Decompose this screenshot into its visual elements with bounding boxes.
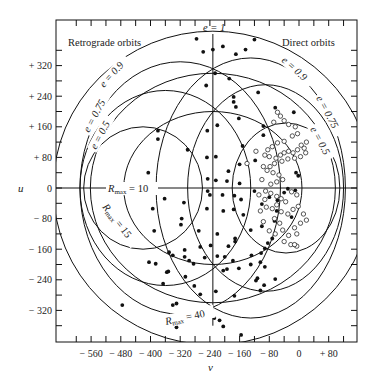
open-data-point <box>267 154 271 158</box>
filled-data-point <box>263 265 267 269</box>
open-data-point <box>282 139 286 143</box>
rmax10-val: = 10 <box>126 183 148 194</box>
filled-data-point <box>266 241 270 245</box>
filled-data-point <box>156 129 160 133</box>
open-data-point <box>295 131 299 135</box>
open-data-point <box>298 221 302 225</box>
filled-data-point <box>233 194 237 198</box>
filled-data-point <box>225 179 229 183</box>
filled-data-point <box>120 303 124 307</box>
filled-data-point <box>187 259 191 263</box>
filled-data-point <box>239 333 243 337</box>
open-data-point <box>268 164 272 168</box>
rmax10-label: Rmax = 10 <box>106 182 158 196</box>
y-tick-label: + 320 <box>29 60 52 71</box>
open-data-point <box>296 204 300 208</box>
filled-data-point <box>253 38 257 42</box>
filled-data-point <box>214 155 218 159</box>
filled-data-point <box>263 247 267 251</box>
filled-data-point <box>254 279 258 283</box>
filled-data-point <box>198 292 202 296</box>
x-axis-label: v <box>208 361 213 373</box>
filled-data-point <box>171 303 175 307</box>
open-data-point <box>292 242 296 246</box>
filled-data-point <box>260 202 264 206</box>
open-data-point <box>261 164 265 168</box>
filled-data-point <box>186 148 190 152</box>
open-data-point <box>303 151 307 155</box>
filled-data-point <box>166 269 170 273</box>
e09-left-label: e = 0.9 <box>96 54 131 91</box>
filled-data-point <box>180 217 184 221</box>
filled-data-point <box>221 209 225 213</box>
open-data-point <box>275 194 279 198</box>
filled-data-point <box>296 174 300 178</box>
filled-data-point <box>201 50 205 54</box>
filled-data-point <box>183 248 187 252</box>
open-data-point <box>245 161 249 165</box>
filled-data-point <box>205 156 209 160</box>
open-data-point <box>275 110 279 114</box>
filled-data-point <box>250 253 254 257</box>
filled-data-point <box>237 116 241 120</box>
open-data-point <box>301 212 305 216</box>
open-data-point <box>277 173 281 177</box>
open-data-point <box>304 218 308 222</box>
open-data-point <box>273 232 277 236</box>
open-data-point <box>291 207 295 211</box>
filled-data-point <box>211 48 215 52</box>
filled-data-point <box>215 254 219 258</box>
open-data-point <box>286 212 290 216</box>
filled-data-point <box>282 191 286 195</box>
filled-data-point <box>163 197 167 201</box>
filled-data-point <box>183 255 187 259</box>
filled-data-point <box>290 215 294 219</box>
open-data-point <box>282 118 286 122</box>
x-tick-label: + 80 <box>320 348 338 359</box>
y-tick-label: 0 <box>47 183 52 194</box>
filled-data-point <box>156 137 160 141</box>
filled-data-point <box>234 105 238 109</box>
filled-data-point <box>197 229 201 233</box>
x-tick-label: − 160 <box>228 348 251 359</box>
filled-data-point <box>231 259 235 263</box>
open-data-point <box>304 140 308 144</box>
open-data-point <box>263 197 267 201</box>
filled-data-point <box>179 223 183 227</box>
rmax10-sub: max <box>114 188 127 196</box>
open-data-point <box>261 219 265 223</box>
filled-data-point <box>175 302 179 306</box>
filled-data-point <box>237 266 241 270</box>
open-data-point <box>272 216 276 220</box>
open-data-point <box>263 189 267 193</box>
x-tick-label: − 240 <box>198 348 221 359</box>
filled-data-point <box>161 282 165 286</box>
filled-data-point <box>195 37 199 41</box>
open-data-point <box>267 229 271 233</box>
open-data-point <box>270 144 274 148</box>
filled-data-point <box>241 213 245 217</box>
filled-data-point <box>154 262 158 266</box>
open-data-point <box>293 125 297 129</box>
y-tick-label: + 160 <box>29 121 52 132</box>
open-data-point <box>265 168 269 172</box>
open-data-point <box>291 151 295 155</box>
filled-data-point <box>261 133 265 137</box>
filled-data-point <box>205 207 209 211</box>
y-tick-label: + 80 <box>34 152 52 163</box>
open-data-point <box>298 154 302 158</box>
filled-data-point <box>227 169 231 173</box>
filled-data-point <box>151 207 155 211</box>
filled-data-point <box>182 201 186 205</box>
filled-data-point <box>253 159 257 163</box>
open-data-point <box>274 156 278 160</box>
filled-data-point <box>292 110 296 114</box>
filled-data-point <box>262 283 266 287</box>
open-data-point <box>295 193 299 197</box>
open-data-point <box>283 200 287 204</box>
open-data-point <box>280 159 284 163</box>
filled-data-point <box>192 284 196 288</box>
filled-data-point <box>205 129 209 133</box>
filled-data-point <box>221 193 225 197</box>
e1-label: e = 1 <box>203 22 225 33</box>
